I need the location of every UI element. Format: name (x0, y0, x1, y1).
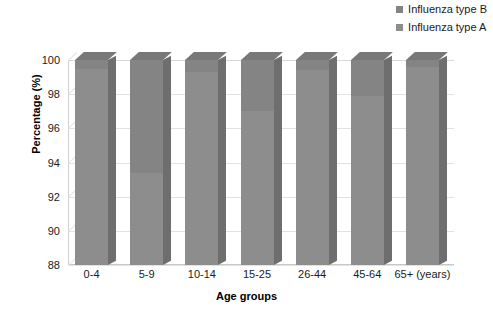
legend-item-influenza-type-a[interactable]: Influenza type A (396, 22, 487, 33)
x-axis-title: Age groups (0, 290, 493, 302)
bar-segment-influenza-type-b[interactable] (351, 60, 384, 96)
bar-side-face (439, 56, 447, 265)
x-tick-label: 65+ (years) (394, 268, 450, 280)
bar-segment-influenza-type-b[interactable] (296, 60, 329, 70)
bar-front-face (185, 60, 218, 265)
bar-side-face (274, 56, 282, 265)
bar-side-face (218, 56, 226, 265)
bar-column[interactable] (130, 60, 163, 265)
bar-column[interactable] (406, 60, 439, 265)
bar-segment-influenza-type-a[interactable] (351, 96, 384, 265)
bar-segment-influenza-type-a[interactable] (130, 173, 163, 265)
bar-front-face (296, 60, 329, 265)
bar-segment-influenza-type-b[interactable] (185, 60, 218, 72)
y-tick-label: 100 (42, 54, 60, 66)
bar-segment-influenza-type-b[interactable] (75, 60, 108, 69)
bar-front-face (406, 60, 439, 265)
x-tick-label: 0-4 (84, 268, 100, 280)
gridline (68, 265, 454, 266)
y-tick-label: 90 (48, 225, 60, 237)
legend-item-influenza-type-b[interactable]: Influenza type B (396, 4, 487, 15)
bar-side-face (329, 56, 337, 265)
legend-label: Influenza type B (408, 4, 487, 15)
y-tick-label: 88 (48, 259, 60, 271)
bar-front-face (75, 60, 108, 265)
bar-segment-influenza-type-a[interactable] (406, 67, 439, 265)
x-axis-ticks: 0-45-910-1415-2526-4445-6465+ (years) (60, 268, 493, 284)
y-tick-label: 98 (48, 88, 60, 100)
x-tick-label: 10-14 (188, 268, 216, 280)
bar-side-face (108, 56, 116, 265)
bar-segment-influenza-type-a[interactable] (241, 111, 274, 265)
x-tick-label: 26-44 (298, 268, 326, 280)
bar-segment-influenza-type-a[interactable] (75, 69, 108, 265)
legend-label: Influenza type A (408, 22, 486, 33)
chart-legend: Influenza type B Influenza type A (396, 4, 487, 33)
legend-swatch-icon (396, 6, 403, 13)
plot-area (68, 60, 454, 265)
y-axis-ticks: 889092949698100 (24, 60, 60, 265)
x-tick-label: 15-25 (243, 268, 271, 280)
bar-column[interactable] (75, 60, 108, 265)
bar-front-face (130, 60, 163, 265)
x-tick-label: 45-64 (353, 268, 381, 280)
y-tick-label: 92 (48, 191, 60, 203)
legend-swatch-icon (396, 24, 403, 31)
bar-segment-influenza-type-b[interactable] (241, 60, 274, 111)
bar-column[interactable] (351, 60, 384, 265)
bar-segment-influenza-type-a[interactable] (296, 70, 329, 265)
x-tick-label: 5-9 (139, 268, 155, 280)
bar-front-face (351, 60, 384, 265)
y-tick-label: 96 (48, 122, 60, 134)
bar-segment-influenza-type-b[interactable] (130, 60, 163, 173)
bar-side-face (384, 56, 392, 265)
bar-column[interactable] (241, 60, 274, 265)
bar-front-face (241, 60, 274, 265)
y-tick-label: 94 (48, 157, 60, 169)
bar-column[interactable] (185, 60, 218, 265)
bar-segment-influenza-type-a[interactable] (185, 72, 218, 265)
bar-column[interactable] (296, 60, 329, 265)
bar-side-face (163, 56, 171, 265)
bar-segment-influenza-type-b[interactable] (406, 60, 439, 67)
chart-figure: Influenza type B Influenza type A Percen… (0, 0, 493, 320)
